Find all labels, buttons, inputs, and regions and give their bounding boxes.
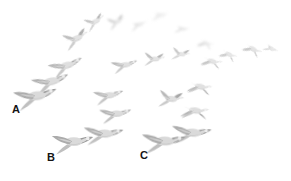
- bird-arc-11: [238, 36, 266, 63]
- label-c: C: [140, 150, 148, 161]
- bird-arc-9: [194, 33, 216, 53]
- bird-arc-1: [28, 65, 72, 101]
- bird-flight-figure: ABC: [0, 0, 291, 181]
- label-b: B: [47, 152, 55, 163]
- bird-arc-2: [44, 49, 86, 84]
- bird-arc-8: [172, 20, 192, 37]
- bird-mid-1: [109, 54, 139, 78]
- bird-arc-12: [259, 38, 281, 60]
- bird-c-third: [154, 86, 186, 112]
- label-a: A: [12, 104, 20, 115]
- bird-mid-3: [168, 45, 192, 65]
- bird-c-second: [169, 117, 213, 151]
- bird-b-second: [81, 118, 124, 150]
- bird-low-1: [98, 101, 133, 127]
- bird-mid-6: [183, 73, 215, 100]
- bird-low-2: [176, 97, 211, 125]
- bird-arc-10: [215, 42, 240, 66]
- bird-arc-4: [79, 9, 110, 37]
- bird-mid-5: [91, 83, 125, 109]
- bird-arc-7: [149, 7, 169, 23]
- bird-arc-3: [57, 23, 94, 55]
- bird-b-foreground: [50, 126, 94, 159]
- bird-arc-5: [103, 11, 129, 34]
- bird-mid-4: [197, 49, 225, 74]
- bird-arc-6: [127, 16, 149, 35]
- bird-mid-2: [141, 50, 167, 70]
